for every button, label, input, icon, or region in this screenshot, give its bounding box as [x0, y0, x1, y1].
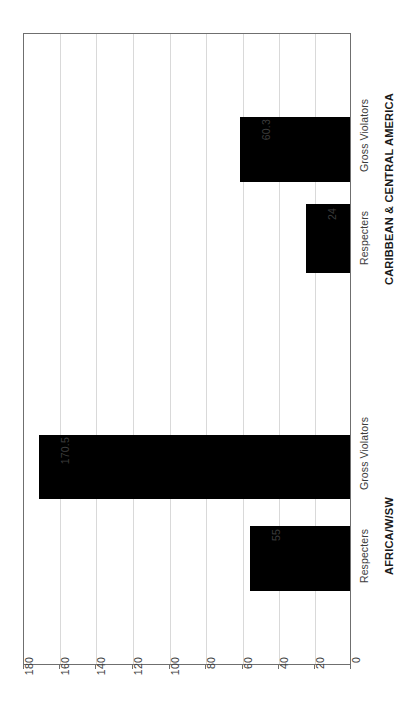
category-label-africa-respecters: Respecters — [358, 529, 370, 583]
group-label-africa-w-sw: AFRICA/W/SW — [383, 497, 395, 575]
bar-chart: 60.3 24 170.5 55 180 160 140 120 100 80 … — [0, 0, 414, 726]
tick-label-80: 80 — [205, 657, 217, 691]
bar-africa-respecters — [250, 526, 350, 591]
category-label-caribbean-respecters: Respecters — [358, 211, 370, 265]
gridline-120 — [133, 34, 134, 664]
bar-value-caribbean-respecters: 24 — [326, 208, 338, 268]
tick-label-100: 100 — [169, 657, 181, 691]
bar-value-caribbean-gross-violators: 60.3 — [260, 119, 272, 179]
tick-label-140: 140 — [95, 657, 107, 691]
category-label-africa-gross-violators: Gross Violators — [358, 417, 370, 490]
gridline-160 — [60, 34, 61, 664]
category-label-caribbean-gross-violators: Gross Violators — [358, 99, 370, 172]
tick-label-20: 20 — [314, 657, 326, 691]
gridline-140 — [96, 34, 97, 664]
bar-value-africa-respecters: 55 — [270, 529, 282, 589]
plot-area — [23, 33, 351, 665]
tick-label-40: 40 — [278, 657, 290, 691]
tick-label-180: 180 — [23, 657, 35, 691]
bar-africa-gross-violators — [39, 435, 350, 499]
bar-caribbean-gross-violators — [240, 117, 350, 182]
gridline-100 — [170, 34, 171, 664]
group-label-caribbean-central-america: CARIBBEAN & CENTRAL AMERICA — [383, 93, 395, 285]
tick-label-160: 160 — [59, 657, 71, 691]
gridline-80 — [206, 34, 207, 664]
tick-label-0: 0 — [350, 657, 362, 691]
tick-label-60: 60 — [242, 657, 254, 691]
tick-label-120: 120 — [132, 657, 144, 691]
bar-value-africa-gross-violators: 170.5 — [59, 437, 71, 497]
